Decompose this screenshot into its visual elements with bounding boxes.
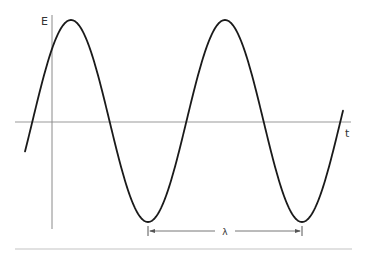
wavelength-annotation: λ (148, 226, 302, 237)
wave-diagram: E t λ (0, 0, 369, 258)
sine-wave-curve (25, 20, 343, 222)
x-axis-label: t (345, 127, 350, 140)
wavelength-label: λ (222, 227, 228, 237)
arrowhead-right-icon (295, 229, 301, 233)
y-axis-label: E (41, 15, 48, 28)
arrowhead-left-icon (149, 229, 155, 233)
